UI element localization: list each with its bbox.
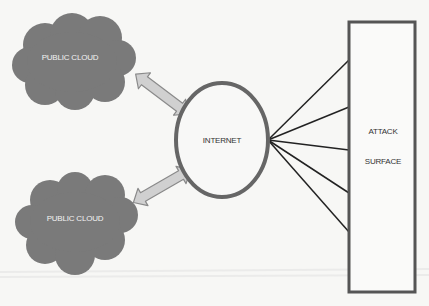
internet-label: INTERNET — [203, 136, 241, 145]
connection-lines — [268, 60, 349, 232]
public-cloud-top — [12, 13, 136, 110]
cloud-bottom-label: PUBLIC CLOUD — [47, 214, 104, 223]
network-diagram — [0, 0, 429, 306]
surface-label: SURFACE — [365, 157, 401, 166]
attack-label: ATTACK — [368, 127, 397, 136]
cloud-top-label: PUBLIC CLOUD — [42, 53, 99, 62]
public-cloud-bottom — [15, 172, 138, 275]
